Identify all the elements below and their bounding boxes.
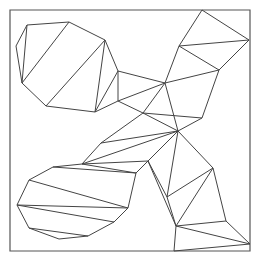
mesh-edge [17,180,29,205]
mesh-edge [213,168,226,221]
mesh-edge [46,40,105,106]
mesh-edge [128,173,136,208]
mesh-edge [178,118,202,131]
mesh-edge [179,40,249,46]
mesh-edge [46,106,95,112]
mesh-edge [165,70,219,83]
mesh-edge [226,221,250,244]
mesh-edge [59,236,88,239]
mesh-edge [165,83,178,131]
mesh-edge [29,180,128,208]
mesh-edge [29,167,53,180]
mesh-edges [16,10,250,251]
mesh-edge [53,164,82,167]
mesh-edge [95,71,118,112]
mesh-edge [179,46,219,70]
mesh-edge [165,46,179,83]
mesh-edge [178,131,213,168]
mesh-edge [176,226,250,244]
mesh-edge [101,113,143,143]
mesh-edge [29,228,88,236]
mesh-edge [27,22,69,25]
mesh-edge [69,22,105,40]
mesh-edge [16,46,22,83]
mesh-edge [202,70,219,118]
mesh-edge [167,168,213,197]
triangulation-diagram [0,0,263,261]
mesh-edge [17,205,29,228]
mesh-edge [82,164,136,173]
mesh-edge [176,168,213,226]
mesh-edge [179,10,202,46]
mesh-edge [202,10,249,40]
mesh-edge [118,101,143,113]
mesh-edge [114,208,128,222]
mesh-edge [22,22,69,83]
mesh-edge [176,221,226,226]
mesh-edge [95,40,105,112]
mesh-edge [88,222,114,236]
frame-border [10,10,250,251]
mesh-edge [136,161,148,173]
mesh-edge [219,40,249,70]
mesh-edge [53,167,136,173]
mesh-edge [118,71,165,83]
mesh-edge [22,83,46,106]
mesh-edge [105,40,118,71]
mesh-edge [174,244,250,251]
mesh-edge [82,161,148,164]
mesh-edge [174,226,176,251]
mesh-edge [101,131,178,143]
